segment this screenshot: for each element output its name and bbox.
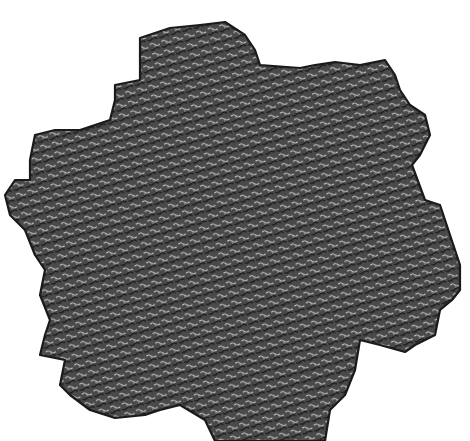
- monotile-tiling-figure: [0, 0, 470, 441]
- tile-cluster: [5, 22, 460, 441]
